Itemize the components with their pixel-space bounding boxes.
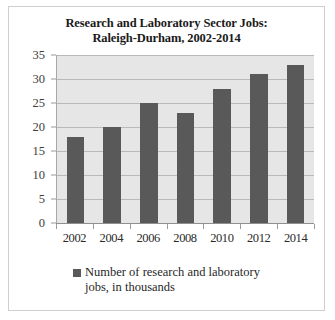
- x-tick-label-2012: 2012: [240, 231, 277, 246]
- bar-2004: [103, 127, 121, 223]
- x-tick-label-2010: 2010: [203, 231, 240, 246]
- x-tick-label-2002: 2002: [56, 231, 93, 246]
- bar-2008: [177, 113, 195, 223]
- x-tick-mark-7: [314, 224, 315, 229]
- x-axis: 2002 2004 2006 2008 2010 2012 2014: [56, 231, 314, 246]
- x-tick-marks: [56, 224, 314, 229]
- chart-legend: Number of research and laboratory jobs, …: [9, 265, 324, 295]
- legend-item: Number of research and laboratory jobs, …: [73, 265, 260, 295]
- bar-2014: [287, 65, 305, 223]
- x-tick-label-2008: 2008: [167, 231, 204, 246]
- plot-region: 0 5 10 15 20 25 30 35: [9, 55, 324, 245]
- bars-layer: [57, 55, 314, 223]
- bar-slot-2008: [167, 55, 204, 223]
- x-tick-mark-6: [277, 224, 278, 229]
- y-tick-label-10: 10: [33, 168, 46, 183]
- bar-slot-2014: [277, 55, 314, 223]
- y-axis: 0 5 10 15 20 25 30 35: [9, 55, 51, 223]
- legend-item-label: Number of research and laboratory jobs, …: [85, 265, 260, 295]
- legend-label-line-1: Number of research and laboratory: [85, 265, 260, 279]
- chart-title-line-2: Raleigh-Durham, 2002-2014: [9, 31, 324, 46]
- y-tick-label-30: 30: [33, 72, 46, 87]
- x-tick-mark-5: [240, 224, 241, 229]
- bar-slot-2012: [241, 55, 278, 223]
- bar-slot-2002: [57, 55, 94, 223]
- bar-slot-2004: [94, 55, 131, 223]
- y-tick-label-35: 35: [33, 48, 46, 63]
- legend-label-line-2: jobs, in thousands: [85, 280, 175, 294]
- x-tick-mark-4: [203, 224, 204, 229]
- bar-2010: [213, 89, 231, 223]
- legend-color-swatch-icon: [73, 269, 81, 277]
- bar-2002: [67, 137, 85, 223]
- bar-2006: [140, 103, 158, 223]
- plot-area: [56, 55, 314, 223]
- y-tick-label-0: 0: [39, 216, 45, 231]
- x-tick-mark-2: [130, 224, 131, 229]
- y-tick-label-15: 15: [33, 144, 46, 159]
- y-tick-label-5: 5: [39, 192, 45, 207]
- bar-slot-2010: [204, 55, 241, 223]
- bar-slot-2006: [130, 55, 167, 223]
- x-tick-mark-0: [56, 224, 57, 229]
- x-tick-mark-3: [167, 224, 168, 229]
- x-tick-mark-1: [93, 224, 94, 229]
- bar-2012: [250, 74, 268, 223]
- y-tick-label-20: 20: [33, 120, 46, 135]
- x-tick-label-2004: 2004: [93, 231, 130, 246]
- chart-title: Research and Laboratory Sector Jobs: Ral…: [9, 7, 324, 46]
- y-tick-label-25: 25: [33, 96, 46, 111]
- chart-title-line-1: Research and Laboratory Sector Jobs:: [9, 16, 324, 31]
- x-tick-label-2014: 2014: [277, 231, 314, 246]
- x-tick-label-2006: 2006: [130, 231, 167, 246]
- chart-figure: Research and Laboratory Sector Jobs: Ral…: [8, 6, 325, 311]
